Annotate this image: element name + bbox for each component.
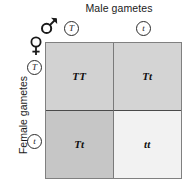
male-gametes-title: Male gametes [56, 2, 182, 14]
genotype-label: Tt [74, 138, 84, 150]
female-gamete-allele-1: T [27, 60, 42, 75]
genotype-label: tt [144, 138, 151, 150]
punnett-square-figure: Male gametes T t T t Female gametes TT T… [0, 0, 192, 191]
venus-symbol [28, 36, 44, 56]
genotype-label: Tt [142, 70, 152, 82]
genotype-label: TT [72, 70, 86, 82]
mars-symbol [40, 17, 58, 35]
female-gamete-allele-2: t [27, 134, 42, 149]
male-gamete-allele-2: t [136, 21, 151, 36]
male-gamete-allele-1: T [64, 21, 79, 36]
punnett-cell-heterozygous-bottom-left: Tt [46, 111, 114, 179]
punnett-cell-homozygous-recessive: tt [114, 111, 182, 179]
punnett-cell-tt-homozygous-dominant: TT [46, 43, 114, 111]
punnett-cell-heterozygous-top-right: Tt [114, 43, 182, 111]
punnett-grid: TT Tt Tt tt [45, 42, 182, 179]
female-gametes-title: Female gametes [17, 55, 29, 175]
